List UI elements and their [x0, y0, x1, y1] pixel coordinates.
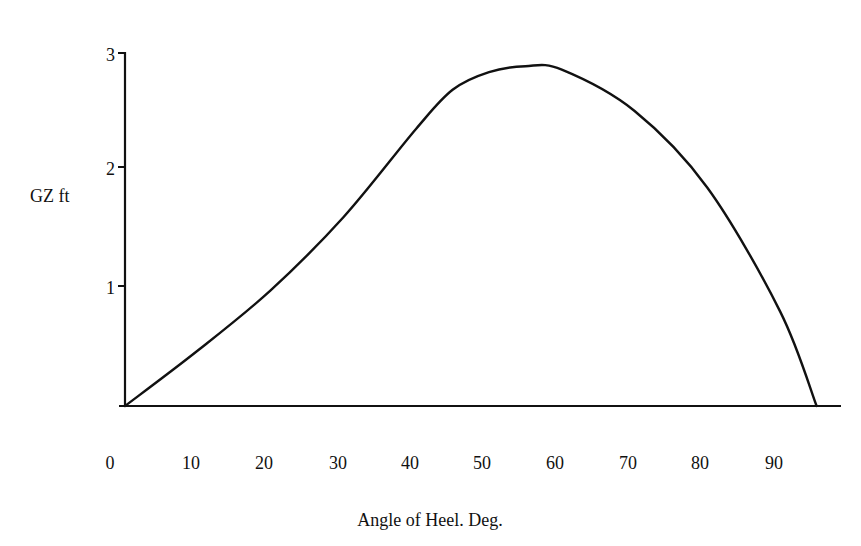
y-axis-title: GZ ft — [30, 186, 70, 206]
x-tick-label: 80 — [691, 453, 709, 473]
x-tick-label: 90 — [765, 453, 783, 473]
x-tick-label: 50 — [473, 453, 491, 473]
gz-curve-line — [125, 65, 817, 406]
x-axis-title: Angle of Heel. Deg. — [357, 510, 502, 530]
x-tick-label: 0 — [106, 453, 115, 473]
x-tick-labels: 0 10 20 30 40 50 60 70 80 90 — [106, 453, 784, 473]
y-tick-label-1: 1 — [106, 278, 115, 298]
x-tick-label: 40 — [401, 453, 419, 473]
y-tick-label-2: 2 — [106, 159, 115, 179]
x-tick-label: 70 — [619, 453, 637, 473]
x-tick-label: 60 — [546, 453, 564, 473]
gz-stability-chart: 3 2 1 GZ ft 0 10 20 30 40 50 60 70 80 90… — [0, 0, 861, 546]
x-tick-label: 20 — [255, 453, 273, 473]
x-tick-label: 10 — [182, 453, 200, 473]
x-tick-label: 30 — [329, 453, 347, 473]
y-tick-label-3: 3 — [106, 45, 115, 65]
